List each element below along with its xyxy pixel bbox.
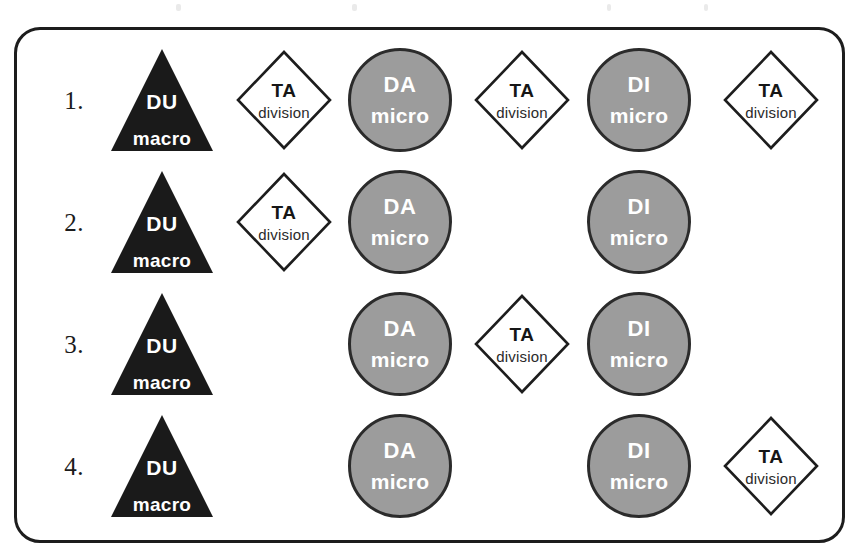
row-number-label: 2.: [42, 209, 84, 237]
diagram-rows: 1.DUmacroTAdivisionDAmicroTAdivisionDImi…: [0, 0, 858, 557]
circle-body: [348, 48, 452, 152]
diagram-row: 4.DUmacroDAmicroDImicroTAdivision: [0, 405, 858, 527]
circle-body: [348, 414, 452, 518]
circle-body: [348, 170, 452, 274]
diagram-canvas: 1.DUmacroTAdivisionDAmicroTAdivisionDImi…: [0, 0, 858, 557]
shape-triangle-du-macro[interactable]: DUmacro: [110, 48, 214, 152]
shape-circle-da-micro[interactable]: DAmicro: [348, 48, 452, 152]
diagram-row: 1.DUmacroTAdivisionDAmicroTAdivisionDImi…: [0, 39, 858, 161]
circle-body: [587, 170, 691, 274]
shape-diamond-ta-division[interactable]: TAdivision: [723, 50, 819, 150]
shape-circle-di-micro[interactable]: DImicro: [587, 170, 691, 274]
circle-body: [348, 292, 452, 396]
diagram-row: 2.DUmacroTAdivisionDAmicroDImicro: [0, 161, 858, 283]
shape-triangle-du-macro[interactable]: DUmacro: [110, 292, 214, 396]
diagram-row: 3.DUmacroDAmicroTAdivisionDImicro: [0, 283, 858, 405]
shape-triangle-du-macro[interactable]: DUmacro: [110, 414, 214, 518]
shape-circle-di-micro[interactable]: DImicro: [587, 414, 691, 518]
circle-body: [587, 414, 691, 518]
row-number-label: 1.: [42, 87, 84, 115]
shape-circle-da-micro[interactable]: DAmicro: [348, 170, 452, 274]
shape-diamond-ta-division[interactable]: TAdivision: [236, 50, 332, 150]
shape-diamond-ta-division[interactable]: TAdivision: [474, 294, 570, 394]
shape-circle-di-micro[interactable]: DImicro: [587, 292, 691, 396]
shape-circle-da-micro[interactable]: DAmicro: [348, 414, 452, 518]
shape-diamond-ta-division[interactable]: TAdivision: [723, 416, 819, 516]
shape-triangle-du-macro[interactable]: DUmacro: [110, 170, 214, 274]
circle-body: [587, 292, 691, 396]
shape-diamond-ta-division[interactable]: TAdivision: [236, 172, 332, 272]
circle-body: [587, 48, 691, 152]
row-number-label: 3.: [42, 331, 84, 359]
shape-circle-di-micro[interactable]: DImicro: [587, 48, 691, 152]
row-number-label: 4.: [42, 453, 84, 481]
shape-circle-da-micro[interactable]: DAmicro: [348, 292, 452, 396]
shape-diamond-ta-division[interactable]: TAdivision: [474, 50, 570, 150]
